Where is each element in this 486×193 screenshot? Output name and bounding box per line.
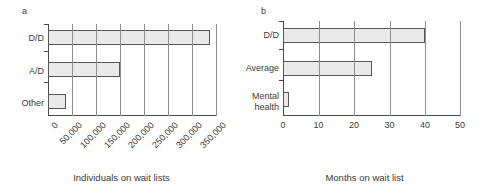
- panel-b-y-tick-2: [279, 80, 283, 81]
- panel-b-y-tick-1: [279, 49, 283, 50]
- panel-b: b D/D Average Mental health 0 10 20 30 4…: [243, 0, 486, 193]
- panel-b-xticklabel-0: 0: [276, 120, 290, 130]
- panel-b-xticklabel-3: 30: [383, 120, 397, 130]
- panel-b-ylabel-2: Mental health: [235, 91, 279, 113]
- panel-b-letter: b: [261, 7, 266, 16]
- panel-b-x-axis: [283, 115, 461, 116]
- panel-b-gridline-1: [319, 21, 320, 116]
- panel-a-y-tick-0: [44, 24, 48, 25]
- panel-a-gridline-1: [72, 24, 73, 116]
- panel-a-y-tick-1: [44, 51, 48, 52]
- panel-b-ylabel-0: D/D: [235, 30, 279, 41]
- panel-b-xticklabel-2: 20: [347, 120, 361, 130]
- panel-a: a D/D A/D Other 0 50,000: [0, 0, 243, 193]
- figure-two-panel-bar-charts: a D/D A/D Other 0 50,000: [0, 0, 486, 193]
- panel-a-gridline-5: [168, 24, 169, 116]
- panel-a-x-axis-title: Individuals on wait lists: [0, 172, 243, 183]
- panel-b-bar-average: [283, 61, 372, 76]
- panel-a-gridline-6: [192, 24, 193, 116]
- panel-b-gridline-5: [460, 21, 461, 116]
- panel-a-bar-ad: [48, 62, 120, 77]
- panel-a-ylabel-0: D/D: [0, 33, 44, 44]
- panel-b-gridline-4: [425, 21, 426, 116]
- panel-a-gridline-4: [144, 24, 145, 116]
- panel-b-xticklabel-5: 50: [453, 120, 467, 130]
- panel-a-y-tick-2: [44, 82, 48, 83]
- panel-b-gridline-3: [390, 21, 391, 116]
- panel-a-bar-other: [48, 94, 66, 109]
- panel-b-ylabel-1: Average: [235, 63, 279, 74]
- panel-a-ylabel-1: A/D: [0, 66, 44, 77]
- panel-a-x-axis: [48, 115, 216, 116]
- panel-b-xticklabel-4: 40: [418, 120, 432, 130]
- panel-b-plot-area: [283, 21, 461, 116]
- panel-b-xticklabel-1: 10: [312, 120, 326, 130]
- panel-a-plot-area: [48, 24, 216, 116]
- panel-a-gridline-7: [216, 24, 217, 116]
- panel-a-gridline-3: [120, 24, 121, 116]
- panel-a-letter: a: [22, 7, 27, 16]
- panel-b-gridline-2: [354, 21, 355, 116]
- panel-b-x-axis-title: Months on wait list: [243, 172, 486, 183]
- panel-a-gridline-2: [96, 24, 97, 116]
- panel-b-bar-mental-health: [283, 92, 289, 107]
- panel-a-ylabel-2: Other: [0, 98, 44, 109]
- panel-b-y-tick-0: [279, 21, 283, 22]
